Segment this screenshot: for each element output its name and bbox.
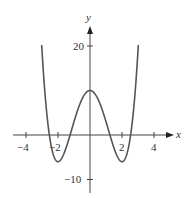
x-tick-label-neg2: −2 bbox=[49, 142, 61, 153]
x-axis-label: x bbox=[176, 129, 181, 140]
x-tick-label-4: 4 bbox=[151, 142, 157, 153]
y-axis-arrow-icon bbox=[87, 26, 93, 34]
x-axis-arrow-icon bbox=[166, 132, 174, 138]
y-axis-label: y bbox=[86, 12, 91, 23]
function-graph: y x −4 −2 2 4 20 −10 bbox=[0, 0, 190, 198]
y-tick-label-20: 20 bbox=[73, 41, 84, 52]
x-tick-label-2: 2 bbox=[119, 142, 125, 153]
y-tick-label-neg10: −10 bbox=[64, 174, 81, 185]
x-tick-label-neg4: −4 bbox=[17, 142, 29, 153]
plot-area bbox=[0, 0, 190, 198]
